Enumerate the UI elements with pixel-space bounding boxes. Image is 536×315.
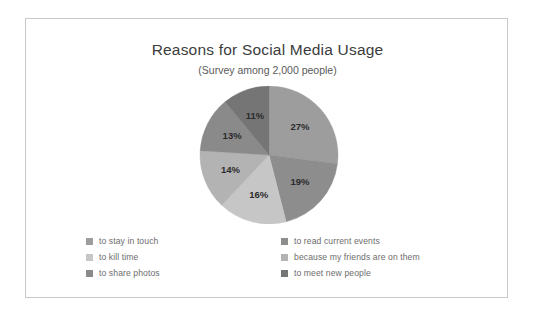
- pie-chart: 27%19%16%14%13%11%: [199, 86, 339, 224]
- legend-item-label: to share photos: [99, 268, 160, 278]
- legend-swatch-icon: [281, 238, 288, 245]
- chart-legend: to stay in touch to kill time to share p…: [86, 233, 496, 281]
- legend-item[interactable]: because my friends are on them: [281, 249, 496, 265]
- chart-page: Reasons for Social Media Usage (Survey a…: [0, 0, 536, 315]
- legend-item[interactable]: to stay in touch: [86, 233, 281, 249]
- legend-swatch-icon: [86, 254, 93, 261]
- pie-slice-value-label: 13%: [223, 130, 243, 141]
- pie-slice-value-label: 14%: [221, 164, 241, 175]
- legend-item[interactable]: to meet new people: [281, 265, 496, 281]
- legend-item[interactable]: to read current events: [281, 233, 496, 249]
- pie-chart-svg: 27%19%16%14%13%11%: [199, 86, 339, 224]
- legend-swatch-icon: [86, 270, 93, 277]
- legend-swatch-icon: [281, 254, 288, 261]
- legend-item-label: to stay in touch: [99, 236, 158, 246]
- pie-slice-value-label: 27%: [291, 121, 311, 132]
- legend-item-label: to kill time: [99, 252, 138, 262]
- chart-frame: Reasons for Social Media Usage (Survey a…: [25, 18, 508, 298]
- legend-swatch-icon: [86, 238, 93, 245]
- legend-swatch-icon: [281, 270, 288, 277]
- legend-item-label: to read current events: [294, 236, 380, 246]
- legend-column-left: to stay in touch to kill time to share p…: [86, 233, 281, 281]
- pie-slice-group: [200, 86, 338, 224]
- pie-slice-value-label: 19%: [291, 176, 311, 187]
- pie-slice-value-label: 16%: [249, 189, 269, 200]
- legend-column-right: to read current events because my friend…: [281, 233, 496, 281]
- legend-item-label: because my friends are on them: [294, 252, 420, 262]
- legend-item-label: to meet new people: [294, 268, 371, 278]
- legend-item[interactable]: to share photos: [86, 265, 281, 281]
- chart-title: Reasons for Social Media Usage: [26, 41, 509, 59]
- pie-slice-value-label: 11%: [246, 110, 265, 121]
- legend-item[interactable]: to kill time: [86, 249, 281, 265]
- chart-subtitle: (Survey among 2,000 people): [26, 64, 509, 76]
